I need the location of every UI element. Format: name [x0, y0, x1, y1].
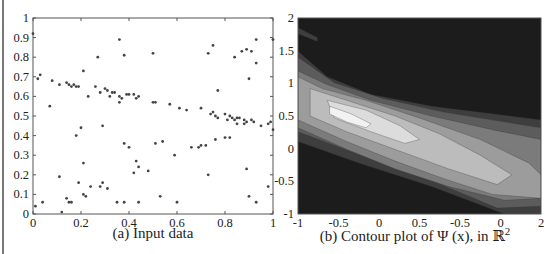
data-point [137, 166, 140, 169]
data-point [248, 77, 251, 80]
data-point [185, 109, 188, 112]
data-point [255, 62, 258, 65]
data-point [159, 195, 162, 198]
y-tick-label: 0.1 [13, 187, 29, 201]
data-point [108, 95, 111, 98]
data-point [94, 85, 97, 88]
y-tick-label: 0.8 [13, 50, 29, 64]
data-point [212, 44, 215, 47]
data-point [207, 173, 210, 176]
data-point [82, 162, 85, 165]
data-point [101, 181, 104, 184]
data-point [48, 105, 51, 108]
data-point [245, 48, 248, 51]
data-point [233, 119, 236, 122]
data-point [34, 205, 37, 208]
y-tick-label: 0.9 [13, 31, 29, 45]
data-point [135, 160, 138, 163]
contour-caption-main: (b) Contour plot of Ψ (x), in ℝ [320, 228, 505, 244]
y-tick-label: 0.4 [13, 129, 29, 143]
data-point [128, 146, 131, 149]
scatter-axes-frame [33, 18, 273, 214]
data-point [118, 95, 121, 98]
scatter-panel: 00.10.20.30.40.50.60.70.80.9100.20.40.60… [0, 0, 280, 254]
data-point [111, 91, 114, 94]
y-tick-label: 0.7 [13, 70, 29, 84]
contour-fill-group [298, 18, 541, 214]
data-point [176, 201, 179, 204]
y-tick-label: 0.5 [278, 109, 294, 123]
data-point [132, 93, 135, 96]
y-tick-label: 0 [23, 207, 29, 221]
data-point [70, 85, 73, 88]
data-point [267, 185, 270, 188]
data-point [228, 136, 231, 139]
y-tick-label: 2 [288, 11, 294, 25]
data-point [58, 83, 61, 86]
data-point [272, 128, 275, 131]
data-point [147, 169, 150, 172]
data-point [123, 201, 126, 204]
data-point [207, 52, 210, 55]
data-point [104, 87, 107, 90]
data-point [168, 103, 171, 106]
data-point [36, 77, 39, 80]
data-point [106, 89, 109, 92]
data-point [99, 91, 102, 94]
data-point [128, 93, 131, 96]
data-point [161, 140, 164, 143]
data-point [233, 56, 236, 59]
data-point [135, 97, 138, 100]
data-point [152, 52, 155, 55]
data-point [255, 201, 258, 204]
data-point [41, 201, 44, 204]
data-point [82, 70, 85, 73]
data-point [65, 197, 68, 200]
y-tick-label: -0.5 [274, 174, 294, 188]
data-point [245, 120, 248, 123]
y-tick-label: 0.3 [13, 148, 29, 162]
data-point [190, 146, 193, 149]
data-point [68, 201, 71, 204]
data-point [84, 195, 87, 198]
data-point [101, 124, 104, 127]
data-point [240, 50, 243, 53]
data-point [269, 120, 272, 123]
data-point [77, 181, 80, 184]
data-point [216, 89, 219, 92]
data-point [132, 171, 135, 174]
y-tick-label: 1.5 [278, 44, 294, 58]
data-point [236, 117, 239, 120]
data-point [226, 119, 229, 122]
data-point [267, 122, 270, 125]
data-point [224, 113, 227, 116]
data-point [204, 144, 207, 147]
data-point [118, 38, 121, 41]
data-point [75, 85, 78, 88]
data-point [178, 107, 181, 110]
data-point [118, 101, 121, 104]
data-point [77, 85, 80, 88]
data-point [75, 134, 78, 137]
data-point [214, 138, 217, 141]
data-point [255, 38, 258, 41]
data-point [113, 91, 116, 94]
data-point [80, 126, 83, 129]
data-point [243, 122, 246, 125]
data-point [96, 56, 99, 59]
data-point [87, 95, 90, 98]
data-point [250, 119, 253, 122]
contour-panel: -1-0.500.511.52-1-0.500.5-0.502 (b) Cont… [276, 0, 554, 254]
data-point [70, 201, 73, 204]
data-point [214, 115, 217, 118]
data-point [152, 101, 155, 104]
data-point [245, 168, 248, 171]
data-point [106, 187, 109, 190]
data-point [99, 185, 102, 188]
y-tick-label: 1 [288, 76, 294, 90]
data-point [154, 142, 157, 145]
data-point [238, 117, 241, 120]
contour-caption: (b) Contour plot of Ψ (x), in ℝ2 [276, 225, 554, 245]
scatter-caption: (a) Input data [0, 225, 306, 242]
data-point [89, 185, 92, 188]
